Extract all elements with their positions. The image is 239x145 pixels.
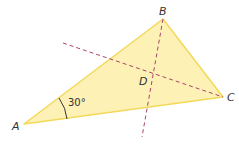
triangle-figure: A B C D 30°: [0, 0, 239, 145]
triangle-abc: [24, 19, 223, 124]
angle-label-a: 30°: [68, 97, 86, 108]
geometry-diagram: A B C D 30°: [0, 0, 239, 145]
vertex-label-a: A: [11, 120, 20, 133]
vertex-label-b: B: [159, 5, 167, 18]
point-label-d: D: [139, 75, 147, 88]
vertex-label-c: C: [227, 91, 235, 104]
